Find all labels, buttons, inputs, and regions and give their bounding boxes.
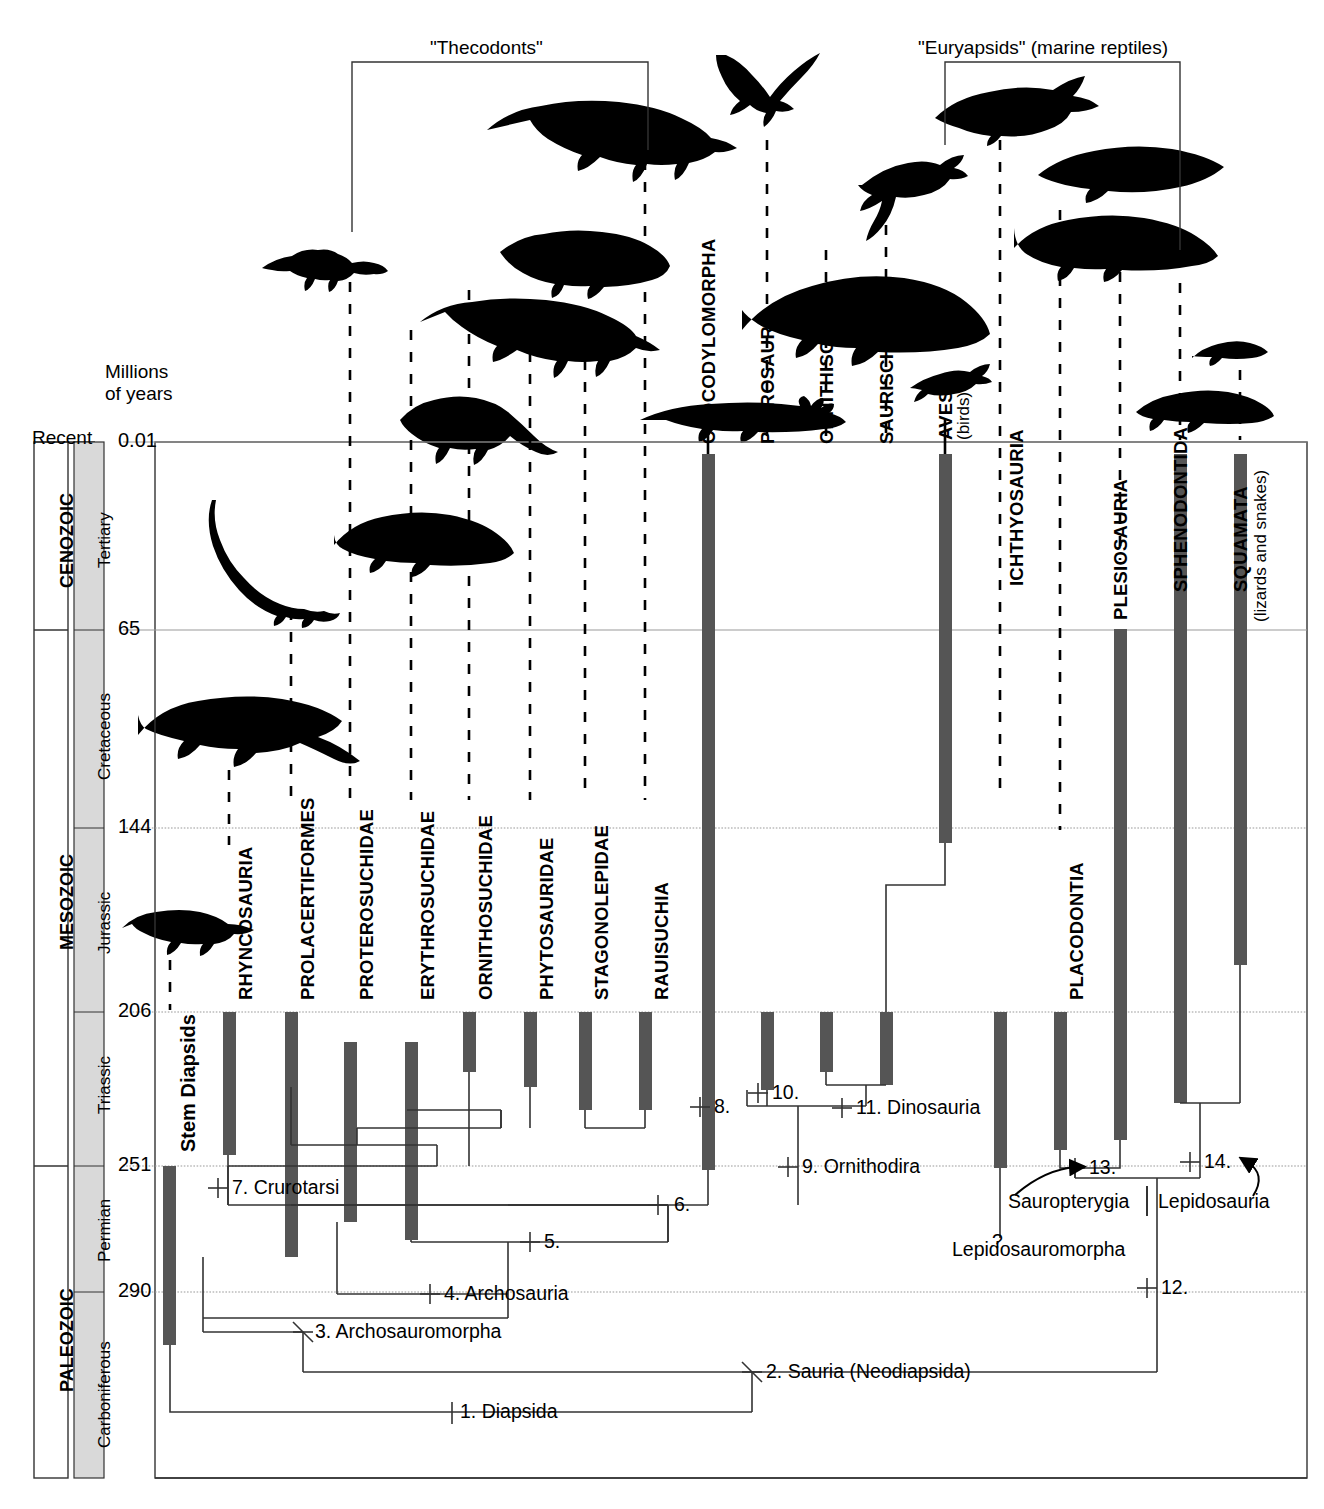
- annotation-question-mark: ?: [992, 1232, 1003, 1252]
- taxon-label-phytosauridae: PHYTOSAURIDAE: [538, 837, 557, 1000]
- taxon-label-saurischia: SAURISCHIA: [878, 327, 897, 444]
- recent-label: Recent: [32, 428, 92, 447]
- period-jurassic: Jurassic: [96, 892, 113, 954]
- axis-tick-3: 206: [118, 1000, 151, 1020]
- bracket-label-euryapsids: "Euryapsids" (marine reptiles): [918, 38, 1168, 57]
- axis-tick-0: 0.01: [118, 430, 157, 450]
- node-label-6: 6.: [674, 1195, 690, 1215]
- axis-header-line1: Millions: [105, 362, 168, 381]
- silhouettes-layer: [0, 0, 1324, 1509]
- taxon-label-sphenodontida: SPHENODONTIDA: [1172, 427, 1191, 592]
- taxon-label-erythrosuchidae: ERYTHROSUCHIDAE: [419, 811, 438, 1000]
- period-tertiary: Tertiary: [96, 512, 113, 568]
- node-label-7: 7. Crurotarsi: [232, 1178, 339, 1198]
- axis-tick-2: 144: [118, 816, 151, 836]
- period-carboniferous: Carboniferous: [96, 1341, 113, 1448]
- taxon-label-ornithischia: ORNITHISCHIA: [818, 308, 837, 444]
- period-permian: Permian: [96, 1199, 113, 1262]
- taxon-label-prolacertiformes: PROLACERTIFORMES: [299, 797, 318, 1000]
- taxon-label-aves: AVES: [937, 390, 956, 440]
- taxon-label-crocodylomorpha: CROCODYLOMORPHA: [700, 239, 719, 444]
- annotation-lepidosauromorpha: Lepidosauromorpha: [952, 1240, 1125, 1260]
- taxon-label-rauisuchia: RAUISUCHIA: [653, 882, 672, 1000]
- node-label-14: 14.: [1204, 1152, 1231, 1172]
- period-triassic: Triassic: [96, 1056, 113, 1114]
- taxon-label-rhyncosauria: RHYNCOSAURIA: [237, 847, 256, 1001]
- taxon-sublabel-squamata: (lizards and snakes): [1252, 470, 1269, 622]
- node-label-3: 3. Archosauromorpha: [315, 1322, 501, 1342]
- node-label-5: 5.: [544, 1232, 560, 1252]
- node-label-2: 2. Sauria (Neodiapsida): [766, 1362, 971, 1382]
- taxon-label-ichthyosauria: ICHTHYOSAURIA: [1008, 429, 1027, 586]
- taxon-label-squamata: SQUAMATA: [1232, 486, 1251, 592]
- node-label-13: 13.: [1089, 1158, 1116, 1178]
- node-label-11: 11. Dinosauria: [856, 1098, 980, 1118]
- axis-tick-1: 65: [118, 618, 140, 638]
- era-mesozoic: MESOZOIC: [58, 854, 76, 950]
- node-label-4: 4. Archosauria: [444, 1284, 569, 1304]
- cladogram-lines-layer: [0, 0, 1324, 1509]
- annotation-lepidosauria: Lepidosauria: [1158, 1192, 1270, 1212]
- node-label-12: 12.: [1161, 1278, 1188, 1298]
- era-paleozoic: PALEOZOIC: [58, 1288, 76, 1392]
- node-label-1: 1. Diapsida: [460, 1402, 558, 1422]
- taxon-label-stem-diapsids: Stem Diapsids: [178, 1014, 198, 1152]
- taxon-sublabel-aves: (birds): [955, 392, 972, 440]
- taxon-label-placodontia: PLACODONTIA: [1068, 862, 1087, 1000]
- taxon-label-proterosuchidae: PROTEROSUCHIDAE: [358, 809, 377, 1000]
- era-cenozoic: CENOZOIC: [58, 493, 76, 588]
- node-label-8: 8.: [714, 1097, 730, 1117]
- annotation-sauropterygia: Sauropterygia: [1008, 1192, 1129, 1212]
- axis-header-line2: of years: [105, 384, 173, 403]
- caption-divider: [1146, 1186, 1148, 1216]
- node-label-9: 9. Ornithodira: [802, 1157, 920, 1177]
- taxon-label-pterosauria: PTEROSAURIA: [759, 307, 778, 444]
- axis-tick-5: 290: [118, 1280, 151, 1300]
- taxon-label-stagonolepidae: STAGONOLEPIDAE: [593, 825, 612, 1000]
- bracket-label-thecodonts: "Thecodonts": [430, 38, 543, 57]
- taxon-label-plesiosauria: PLESIOSAURIA: [1112, 479, 1131, 620]
- period-cretaceous: Cretaceous: [96, 693, 113, 780]
- axis-tick-4: 251: [118, 1154, 151, 1174]
- taxon-label-ornithosuchidae: ORNITHOSUCHIDAE: [477, 815, 496, 1000]
- phylogeny-figure: "Thecodonts" "Euryapsids" (marine reptil…: [0, 0, 1324, 1509]
- node-label-10: 10.: [772, 1083, 799, 1103]
